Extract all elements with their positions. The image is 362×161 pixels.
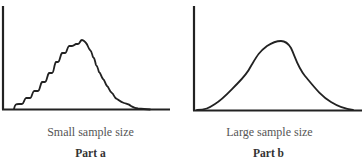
smooth-distribution-curve [197,41,353,110]
panel-part-b: Large sample size Part b [181,0,362,161]
small-sample-histogram [0,0,181,120]
label-part-b: Part b [178,146,359,160]
caption-small-sample-size: Small sample size [0,125,181,139]
large-sample-distribution [181,0,362,120]
panel-part-a: Small sample size Part a [0,0,181,161]
caption-large-sample-size: Large sample size [179,125,360,139]
label-part-a: Part a [0,146,181,160]
stepped-distribution-curve [14,40,150,110]
